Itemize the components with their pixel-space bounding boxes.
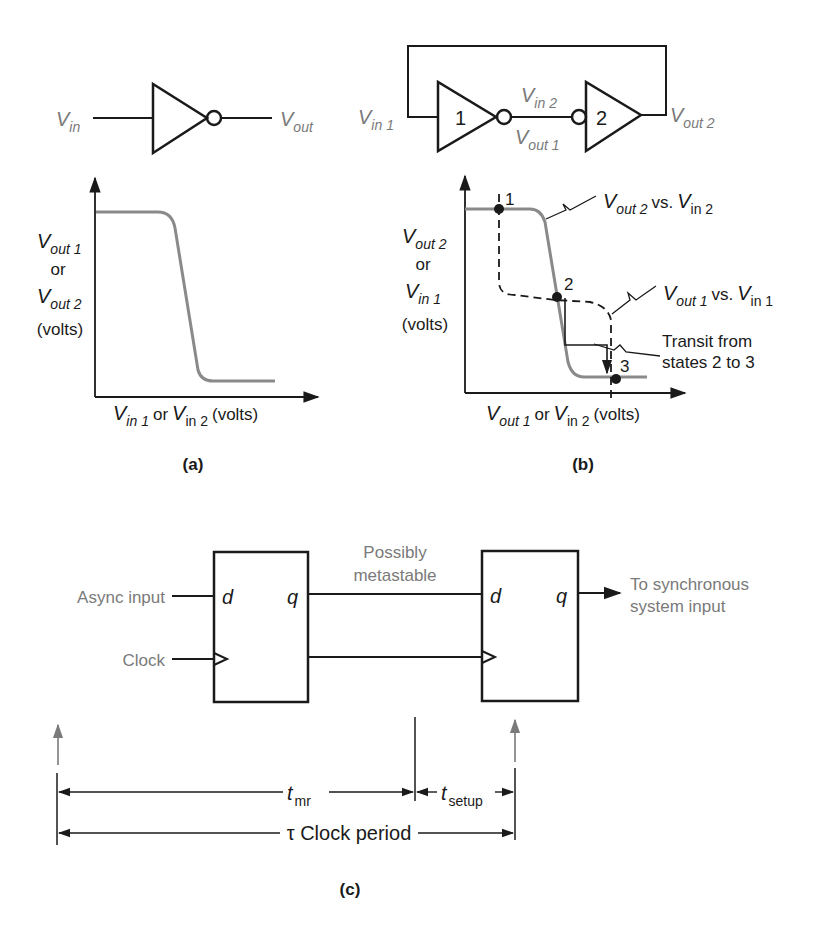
caption-c: (c) [340,880,361,899]
gate-2-label: 2 [596,107,607,129]
vin1-label: Vin 1 [358,106,394,133]
y-axis-label: Vout 1 or Vout 2 (volts) [37,230,83,339]
async-input-label: Async input [77,588,165,607]
ff2-d-pin: d [490,585,502,607]
flip-flop-1 [214,552,308,702]
transfer-curve [96,212,275,381]
vin-label: Vin [56,108,80,135]
curve2-label: Vout 1vs.Vin 1 [663,282,773,309]
inverter-2-bubble [572,110,586,124]
caption-a: (a) [183,455,204,474]
t-mr-label: tmr [287,782,311,809]
x-axis-label: Vout 1orVin 2(volts) [486,402,640,429]
vout1-label: Vout 1 [515,126,559,153]
svg-text:(volts): (volts) [37,320,83,339]
vout2-label: Vout 2 [670,104,715,131]
svg-text:or: or [50,260,65,279]
svg-text:Vout 1: Vout 1 [37,230,81,257]
cross-coupled-inverters: 1 2 Vin 1 Vin 2 Vout 1 Vout 2 [358,46,715,153]
svg-text:Vout 2: Vout 2 [37,285,82,312]
state-point-1 [494,204,504,214]
metastability-figure: Vin Vout Vout 1 or Vout 2 (volts) Vin 1o… [0,0,819,941]
inverter-triangle [153,84,207,153]
panel-b: 1 2 Vin 1 Vin 2 Vout 1 Vout 2 1 2 [358,46,773,474]
y-axis-label: Vout 2 or Vin 1 (volts) [402,225,448,334]
svg-text:Vout 2: Vout 2 [402,225,447,252]
svg-text:2: 2 [564,275,573,294]
vout-label: Vout [280,108,314,135]
x-axis-label: Vin 1orVin 2(volts) [113,402,258,429]
metastable-label-1: Possibly [363,543,427,562]
output-label-1: To synchronous [630,575,749,594]
t-setup-label: tsetup [441,782,483,809]
inverter-1-bubble [497,110,511,124]
ff1-clock-triangle [214,653,227,665]
svg-text:1: 1 [505,190,514,209]
panel-a: Vin Vout Vout 1 or Vout 2 (volts) Vin 1o… [37,84,318,474]
inverter-2 [586,82,641,151]
ff2-q-pin: q [556,585,567,607]
ff1-d-pin: d [222,586,234,608]
state-point-2 [552,292,562,302]
clock-period-label: τ Clock period [287,822,412,844]
svg-text:or: or [415,255,430,274]
leader-curve-1 [546,196,596,219]
svg-text:Vin 1: Vin 1 [405,280,441,307]
inverter-1 [438,82,496,151]
flip-flop-2 [482,551,578,701]
graph-a: Vout 1 or Vout 2 (volts) Vin 1orVin 2(vo… [37,178,318,429]
gate-1-label: 1 [455,107,466,129]
transit-path [565,298,607,373]
clock-label: Clock [122,651,165,670]
transit-label-line2: states 2 to 3 [662,353,755,372]
transit-label-line1: Transit from [662,332,752,351]
leader-curve-2 [612,286,656,314]
ff1-q-pin: q [287,586,298,608]
metastable-label-2: metastable [353,566,436,585]
curve1-label: Vout 2vs.Vin 2 [603,190,713,217]
ff2-clock-triangle [482,651,495,663]
panel-c: d q d q Async input Clock Possibly metas… [57,543,749,899]
svg-text:(volts): (volts) [402,315,448,334]
graph-b: 1 2 3 Vout 2vs.Vin 2 Vout 1vs.Vin 1 Tran… [402,176,773,429]
vin2-label: Vin 2 [521,84,557,111]
svg-text:3: 3 [620,357,629,376]
inverter-a: Vin Vout [56,84,314,153]
caption-b: (b) [572,455,594,474]
output-label-2: system input [630,597,726,616]
